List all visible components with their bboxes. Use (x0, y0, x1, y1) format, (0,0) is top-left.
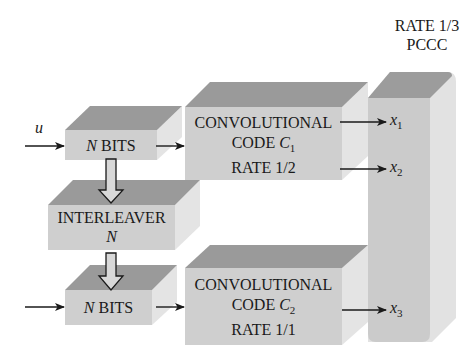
nbits-top-label: N BITS (65, 136, 157, 155)
conv2-line3: RATE 1/1 (185, 320, 342, 340)
conv1-line1: CONVOLUTIONAL (185, 113, 342, 133)
output-x3: x3 (390, 299, 403, 319)
conv1-var: C (279, 134, 290, 151)
nbits-top-var: N (86, 137, 97, 154)
nbits-bottom-label: N BITS (65, 298, 152, 317)
conv1-label: CONVOLUTIONAL CODE C1 RATE 1/2 (185, 113, 342, 178)
conv1-line3: RATE 1/2 (185, 158, 342, 178)
conv2-line2-text: CODE (232, 296, 280, 313)
pccc-block (368, 72, 456, 342)
output-x2-sub: 2 (397, 166, 403, 178)
output-x1: x1 (390, 111, 403, 131)
title-line1: RATE 1/3 (378, 16, 476, 35)
title-line2: PCCC (378, 35, 476, 54)
conv1-line2-text: CODE (232, 134, 280, 151)
nbits-bottom-text: BITS (95, 299, 134, 316)
output-x2: x2 (390, 158, 403, 178)
conv2-line1: CONVOLUTIONAL (185, 275, 342, 295)
conv2-sub: 2 (290, 304, 296, 316)
interleaver-line2: N (106, 228, 117, 245)
conv1-sub: 1 (290, 142, 296, 154)
nbits-top-text: BITS (97, 137, 136, 154)
nbits-bottom-var: N (84, 299, 95, 316)
input-label-u: u (35, 119, 43, 137)
conv2-var: C (279, 296, 290, 313)
interleaver-label: INTERLEAVER N (48, 208, 175, 246)
output-x3-sub: 3 (397, 307, 403, 319)
output-x1-sub: 1 (397, 119, 403, 131)
diagram-title: RATE 1/3 PCCC (378, 16, 476, 54)
conv2-label: CONVOLUTIONAL CODE C2 RATE 1/1 (185, 275, 342, 340)
interleaver-line1: INTERLEAVER (48, 208, 175, 227)
